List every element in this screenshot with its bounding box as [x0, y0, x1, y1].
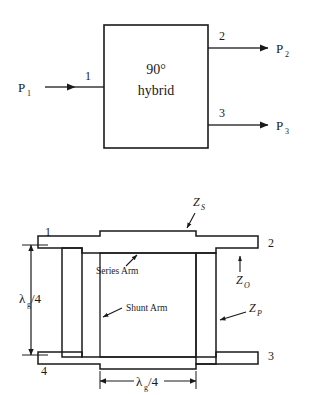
output-power-label-3: P	[276, 118, 283, 133]
impedance-zo-subscript: O	[244, 281, 250, 290]
series-arm-leader-arrow	[126, 255, 137, 266]
shunt-arm-leader-arrow	[103, 308, 122, 317]
figure-root: 90° hybrid P 1 1 2 P 2 3 P 3 1	[0, 0, 311, 395]
output-power-subscript-3: 3	[285, 127, 289, 136]
coupler-port-4: 4	[41, 364, 47, 378]
coupler-port-2: 2	[268, 236, 274, 250]
output-power-subscript-2: 2	[285, 50, 289, 59]
port-number-1: 1	[85, 69, 91, 83]
technical-figure: 90° hybrid P 1 1 2 P 2 3 P 3 1	[0, 0, 311, 395]
output-power-label-2: P	[276, 41, 283, 56]
horizontal-dimension-rest: /4	[148, 374, 159, 389]
right-vertical-arm	[196, 253, 216, 364]
input-power-label: P	[18, 80, 25, 95]
shunt-arm-annotation: Shunt Arm	[126, 303, 168, 313]
horizontal-dimension-lambda: λ	[136, 374, 143, 389]
block-label-hybrid: hybrid	[138, 83, 175, 98]
top-rail-conductor	[38, 231, 258, 253]
port-number-2: 2	[219, 29, 225, 43]
impedance-zs-subscript: S	[201, 203, 205, 212]
coupler-layout-group: 1 2 3 4 Z S Z O Z P Series Arm Shunt Arm…	[19, 195, 274, 392]
series-arm-annotation: Series Arm	[96, 266, 139, 276]
left-vertical-arm	[62, 248, 82, 357]
zs-leader-arrow	[187, 213, 195, 228]
coupler-port-1: 1	[45, 225, 51, 239]
impedance-zs-label: Z	[193, 195, 200, 209]
vertical-dimension-lambda: λ	[19, 291, 26, 306]
bottom-rail-conductor	[38, 352, 258, 369]
coupler-port-3: 3	[268, 349, 274, 363]
block-diagram-group: 90° hybrid P 1 1 2 P 2 3 P 3	[18, 25, 289, 148]
impedance-zp-label: Z	[249, 301, 256, 315]
block-label-degree: 90°	[146, 62, 166, 77]
impedance-zp-subscript: P	[256, 309, 262, 318]
zp-leader-arrow	[220, 312, 246, 320]
input-power-subscript: 1	[27, 89, 31, 98]
impedance-zo-label: Z	[236, 273, 243, 287]
port-number-3: 3	[219, 106, 225, 120]
vertical-dimension-rest: /4	[31, 291, 42, 306]
